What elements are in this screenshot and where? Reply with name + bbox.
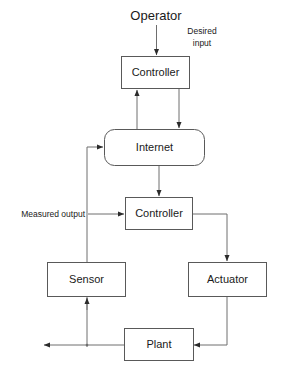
- desired-input-label-line1: Desired: [187, 26, 217, 36]
- edge-actuator-to-plant: [194, 296, 227, 345]
- node-internet: Internet: [105, 130, 205, 166]
- junction-dot-plant-feedback: [86, 344, 89, 347]
- node-sensor: Sensor: [48, 263, 126, 297]
- sensor-label: Sensor: [69, 273, 104, 285]
- label-layer: Operator Desired input Measured output: [21, 8, 217, 219]
- plant-label: Plant: [146, 338, 171, 350]
- internet-label: Internet: [136, 141, 173, 153]
- node-controller-top: Controller: [122, 57, 190, 89]
- operator-label: Operator: [130, 8, 182, 23]
- measured-output-label: Measured output: [21, 209, 85, 219]
- diagram-canvas: Controller Internet Controller Sensor Ac…: [0, 0, 282, 383]
- desired-input-label-line2: input: [193, 38, 212, 48]
- node-actuator: Actuator: [189, 263, 267, 297]
- node-controller-bottom: Controller: [126, 198, 193, 230]
- controller-top-label: Controller: [132, 66, 180, 78]
- controller-bottom-label: Controller: [135, 207, 183, 219]
- edge-feedback-to-internet: [87, 147, 103, 347]
- control-loop-diagram: Controller Internet Controller Sensor Ac…: [0, 0, 282, 383]
- actuator-label: Actuator: [207, 273, 248, 285]
- node-plant: Plant: [125, 329, 194, 361]
- edge-controller-bottom-to-actuator: [192, 214, 227, 261]
